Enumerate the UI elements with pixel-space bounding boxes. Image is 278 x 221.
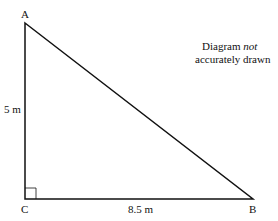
vertex-label-c: C: [21, 204, 28, 215]
note-prefix: Diagram: [202, 40, 243, 52]
vertex-label-b: B: [249, 204, 256, 215]
note-line2: accurately drawn: [195, 53, 270, 65]
side-label-cb: 8.5 m: [128, 204, 153, 215]
vertex-label-a: A: [21, 9, 29, 20]
right-angle-marker: [25, 188, 36, 199]
side-label-ac: 5 m: [4, 104, 21, 115]
triangle-figure: [0, 0, 278, 221]
not-to-scale-note: Diagram not accurately drawn: [202, 40, 270, 66]
note-emphasis: not: [243, 40, 257, 52]
